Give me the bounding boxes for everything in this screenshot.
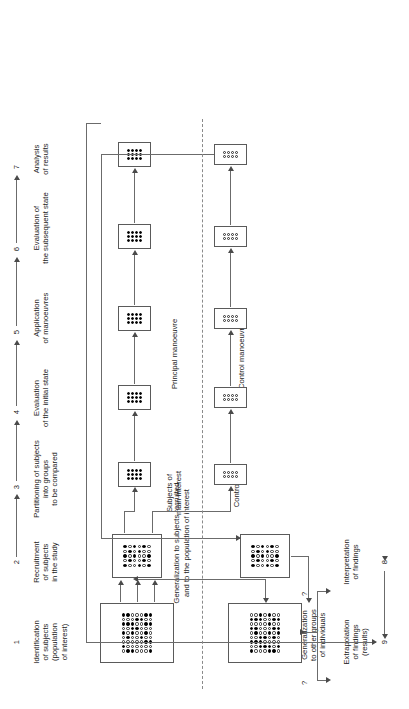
subject-dot-filled xyxy=(126,649,129,652)
subject-dot-filled xyxy=(122,622,125,625)
subject-dot-filled xyxy=(128,559,132,563)
connector-principal-5-6 xyxy=(134,254,135,305)
subject-dot-open xyxy=(140,622,143,625)
step-number-4: 4 xyxy=(12,405,21,419)
subject-dot-open xyxy=(223,315,226,318)
subject-dot-filled xyxy=(254,627,257,630)
subject-dot-filled xyxy=(127,400,130,403)
subject-dot-open xyxy=(122,627,125,630)
arrow-recruit-to-control xyxy=(228,486,234,491)
subject-dot-open xyxy=(131,618,134,621)
subject-dot-filled xyxy=(126,613,129,616)
connector-extrapolation-bracket-stem xyxy=(303,632,317,633)
connector-pop-to-recruit-1 xyxy=(120,584,121,602)
subject-dot-open xyxy=(268,627,271,630)
box-control-stage-3 xyxy=(214,464,247,485)
subject-dot-open xyxy=(231,398,234,401)
arrow-principal-5 xyxy=(132,332,138,337)
subject-dot-filled xyxy=(272,649,275,652)
subject-dot-filled xyxy=(138,550,142,554)
subject-dot-open xyxy=(126,627,129,630)
subject-dot-filled xyxy=(139,477,142,480)
subject-dot-open xyxy=(235,398,238,401)
subject-dot-filled xyxy=(127,157,130,160)
box-principal-stage-5 xyxy=(118,306,151,331)
arrow-control-7 xyxy=(228,166,234,171)
subject-dot-filled xyxy=(135,317,138,320)
stage-label-4: Evaluation of the initial state xyxy=(32,355,50,441)
subject-dot-open xyxy=(259,649,262,652)
subject-dot-filled xyxy=(277,618,280,621)
subject-dot-filled xyxy=(261,545,265,549)
arrow-principal-4 xyxy=(132,411,138,416)
subject-dot-open xyxy=(133,550,137,554)
subject-dot-filled xyxy=(277,631,280,634)
subject-dot-open xyxy=(263,618,266,621)
stage-label-2: Recruitment of subjects in the study xyxy=(32,525,60,599)
subject-dot-filled xyxy=(123,554,127,558)
subject-dot-filled xyxy=(140,618,143,621)
subject-dot-open xyxy=(227,151,230,154)
step-number-1: 1 xyxy=(12,635,21,649)
dot-grid xyxy=(127,313,142,324)
subject-dot-open xyxy=(235,237,238,240)
arrow-control-5 xyxy=(228,330,234,335)
subject-dot-open xyxy=(263,631,266,634)
stage-label-8: Interpretation of findings xyxy=(342,525,360,599)
subject-dot-open xyxy=(277,636,280,639)
connector-recruit-split-stem-bottom xyxy=(152,511,153,533)
subject-dot-open xyxy=(140,627,143,630)
step-axis-segment-2-3 xyxy=(16,497,17,557)
box-recruited-subjects xyxy=(112,534,162,578)
subject-dot-open xyxy=(128,545,132,549)
subject-dot-open xyxy=(223,155,226,158)
subject-dot-open xyxy=(277,649,280,652)
population-sample-separator xyxy=(202,119,203,689)
subject-dot-open xyxy=(128,564,132,568)
subject-dot-open xyxy=(140,631,143,634)
arrow-control-4 xyxy=(228,409,234,414)
subject-dot-filled xyxy=(139,469,142,472)
subject-dot-filled xyxy=(268,622,271,625)
subject-dot-open xyxy=(266,545,270,549)
subject-dot-filled xyxy=(147,554,151,558)
dot-grid xyxy=(223,315,238,322)
subject-dot-filled xyxy=(122,631,125,634)
subject-dot-open xyxy=(259,631,262,634)
subject-dot-filled xyxy=(131,231,134,234)
subject-dot-open xyxy=(227,319,230,322)
arrow-generalization-left xyxy=(326,678,331,684)
subject-dot-open xyxy=(250,636,253,639)
subject-dot-open xyxy=(122,636,125,639)
connector-interpretation-to-extrapolation-horiz xyxy=(308,556,309,599)
subject-dot-open xyxy=(275,550,279,554)
subject-dot-filled xyxy=(259,645,262,648)
dot-grid xyxy=(223,471,238,478)
dot-grid xyxy=(223,233,238,240)
subject-dot-open xyxy=(131,645,134,648)
arrow-extrapolation-down xyxy=(300,630,305,636)
subject-dot-open xyxy=(231,319,234,322)
subject-dot-open xyxy=(144,649,147,652)
connector-control-5-6 xyxy=(230,253,231,307)
subject-dot-filled xyxy=(131,622,134,625)
subject-dot-open xyxy=(231,151,234,154)
subject-dot-open xyxy=(266,554,270,558)
subject-dot-open xyxy=(149,618,152,621)
step-axis-arrow-9 xyxy=(382,634,388,639)
subject-dot-open xyxy=(235,155,238,158)
subject-dot-filled xyxy=(139,157,142,160)
subject-dot-filled xyxy=(133,554,137,558)
subject-dot-filled xyxy=(135,392,138,395)
subject-dot-open xyxy=(250,613,253,616)
step-axis-arrow-4 xyxy=(14,420,20,425)
connector-merge-return-horizontal xyxy=(101,154,102,539)
subject-dot-open xyxy=(147,545,151,549)
subject-dot-open xyxy=(142,550,146,554)
dot-grid xyxy=(127,392,142,403)
arrow-return-to-interpretation xyxy=(236,536,241,542)
step-axis-arrow-3 xyxy=(14,494,20,499)
connector-merge-return-vertical xyxy=(101,538,240,539)
subject-dot-filled xyxy=(149,649,152,652)
subject-dot-open xyxy=(256,554,260,558)
